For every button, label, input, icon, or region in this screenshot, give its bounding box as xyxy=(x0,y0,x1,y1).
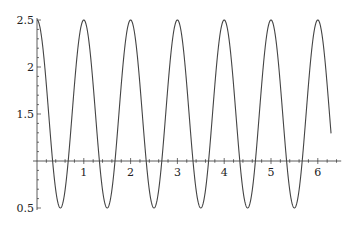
x-tick-label: 6 xyxy=(314,166,321,179)
x-tick-label: 3 xyxy=(174,166,181,179)
line-chart: 1234560.51.522.5 xyxy=(0,0,360,228)
y-tick-label: 2.5 xyxy=(17,14,35,27)
data-line xyxy=(37,20,331,208)
x-tick-label: 5 xyxy=(268,166,275,179)
y-tick-label: 0.5 xyxy=(17,202,35,215)
axes xyxy=(33,18,341,210)
tick-labels: 1234560.51.522.5 xyxy=(17,14,322,215)
y-tick-label: 1.5 xyxy=(17,108,35,121)
x-tick-label: 1 xyxy=(80,166,87,179)
y-tick-label: 2 xyxy=(27,61,34,74)
x-tick-label: 4 xyxy=(221,166,228,179)
x-tick-label: 2 xyxy=(127,166,134,179)
